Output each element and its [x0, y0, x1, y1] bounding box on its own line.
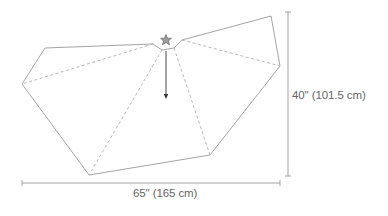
diagram-canvas: 40" (101.5 cm) 65" (165 cm) — [0, 0, 388, 216]
star-icon — [161, 35, 172, 45]
height-dimension-label: 40" (101.5 cm) — [292, 89, 366, 101]
fold-line-left — [22, 44, 153, 84]
width-dimension-label: 65" (165 cm) — [133, 187, 197, 199]
pattern-diagram — [0, 0, 388, 216]
height-dimension-line — [285, 12, 291, 176]
fold-lines — [22, 40, 280, 175]
fold-line-right — [182, 40, 280, 66]
width-dimension-line — [22, 180, 280, 186]
down-arrow-icon — [164, 51, 168, 99]
piece-outline — [22, 16, 280, 175]
fold-line-lower-right — [174, 48, 210, 155]
fold-line-lower-left — [89, 50, 162, 175]
